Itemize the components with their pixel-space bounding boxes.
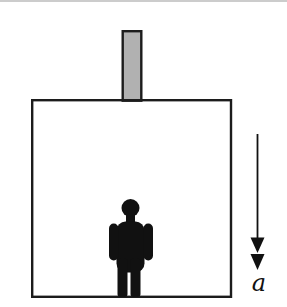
person-right-arm — [144, 224, 154, 261]
arrow-head-upper — [251, 238, 265, 254]
figure-canvas: a — [0, 0, 287, 307]
person-right-leg — [131, 258, 141, 297]
arrow-head-lower — [251, 254, 265, 270]
person-left-arm — [109, 224, 119, 261]
person-left-leg — [118, 258, 128, 297]
acceleration-arrow — [251, 134, 265, 270]
piston-rod — [123, 31, 142, 101]
person-figure — [109, 199, 153, 297]
acceleration-label: a — [252, 269, 266, 297]
physics-diagram: a — [0, 0, 287, 307]
